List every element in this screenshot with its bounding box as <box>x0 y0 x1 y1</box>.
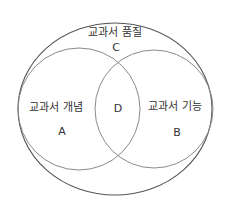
right-label: 교과서 기능 <box>148 100 202 113</box>
left-label: 교과서 개념 <box>29 101 83 114</box>
outer-label: 교과서 품질 <box>88 26 142 39</box>
region-c-label: C <box>112 41 120 54</box>
region-d-label: D <box>114 102 122 115</box>
region-b-label: B <box>173 126 181 139</box>
region-a-label: A <box>58 125 66 138</box>
venn-diagram: 교과서 품질 C 교과서 개념 A D 교과서 기능 B <box>0 0 226 210</box>
